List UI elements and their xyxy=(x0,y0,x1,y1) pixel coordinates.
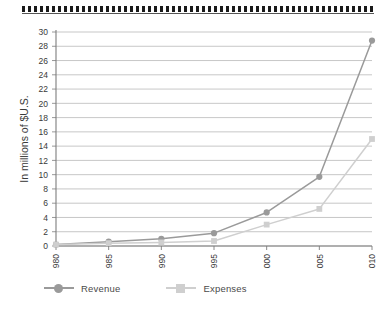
y-tick-label: 20 xyxy=(39,99,49,109)
y-tick-label: 6 xyxy=(43,198,48,208)
x-tick-labels: 1980198519901995200020052010 xyxy=(51,254,377,268)
gridlines xyxy=(52,32,372,246)
y-tick-label: 8 xyxy=(43,184,48,194)
y-tick-label: 28 xyxy=(39,41,49,51)
chart-legend: Revenue Expenses xyxy=(0,282,382,294)
series-line-revenue xyxy=(56,41,372,245)
data-point-revenue xyxy=(316,174,322,180)
y-tick-label: 2 xyxy=(43,227,48,237)
legend-swatch-expenses xyxy=(166,282,196,294)
y-tick-label: 22 xyxy=(39,84,49,94)
data-point-expenses xyxy=(158,240,164,246)
x-tick-marks xyxy=(56,246,372,250)
data-point-expenses xyxy=(369,136,375,142)
legend-circle-marker-icon xyxy=(54,284,63,293)
y-tick-label: 16 xyxy=(39,127,49,137)
legend-swatch-revenue xyxy=(44,282,74,294)
x-tick-label: 1985 xyxy=(104,254,114,268)
x-tick-label: 1990 xyxy=(157,254,167,268)
y-axis-title: In millions of $U.S. xyxy=(18,95,30,183)
data-point-expenses xyxy=(106,240,112,246)
y-tick-labels: 024681012141618202224262830 xyxy=(39,27,49,251)
y-axis-title-text: In millions of $U.S. xyxy=(18,95,30,183)
line-chart: 024681012141618202224262830 198019851990… xyxy=(0,18,382,268)
y-tick-label: 18 xyxy=(39,113,49,123)
data-point-expenses xyxy=(316,206,322,212)
underline-rule xyxy=(22,13,374,14)
x-tick-label: 2010 xyxy=(367,254,377,268)
y-tick-label: 30 xyxy=(39,27,49,37)
x-tick-label: 2005 xyxy=(315,254,325,268)
y-tick-label: 12 xyxy=(39,156,49,166)
y-tick-label: 14 xyxy=(39,141,49,151)
legend-item-expenses[interactable]: Expenses xyxy=(166,282,246,294)
y-tick-label: 10 xyxy=(39,170,49,180)
data-point-expenses xyxy=(264,222,270,228)
y-tick-label: 4 xyxy=(43,213,48,223)
chart-canvas: 024681012141618202224262830 198019851990… xyxy=(0,18,382,268)
y-tick-label: 24 xyxy=(39,70,49,80)
x-tick-label: 2000 xyxy=(262,254,272,268)
data-point-revenue xyxy=(264,209,270,215)
data-point-revenue xyxy=(211,230,217,236)
series-line-expenses xyxy=(56,139,372,245)
legend-label-expenses: Expenses xyxy=(203,283,246,294)
legend-square-marker-icon xyxy=(176,284,185,293)
data-series xyxy=(53,37,375,247)
hatched-rule-icon xyxy=(22,6,374,12)
x-tick-label: 1980 xyxy=(51,254,61,268)
top-decorative-border xyxy=(22,6,374,15)
y-tick-label: 0 xyxy=(43,241,48,251)
y-tick-label: 26 xyxy=(39,56,49,66)
legend-label-revenue: Revenue xyxy=(81,283,120,294)
legend-item-revenue[interactable]: Revenue xyxy=(44,282,120,294)
data-point-expenses xyxy=(53,242,59,248)
data-point-revenue xyxy=(369,37,375,43)
x-tick-label: 1995 xyxy=(209,254,219,268)
data-point-expenses xyxy=(211,238,217,244)
